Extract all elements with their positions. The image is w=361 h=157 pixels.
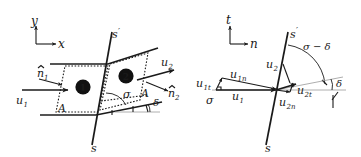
- label-angle-sigma-right: σ: [206, 94, 214, 107]
- vector-u2-arrow: [137, 70, 174, 80]
- figure-oblique-shock: 1 2 y x s: [0, 0, 361, 157]
- label-sigma-minus-delta: σ − δ: [303, 41, 331, 52]
- label-s-right: s: [265, 142, 271, 155]
- label-u1-sub: 1: [24, 101, 28, 109]
- label-u2-base: u: [161, 56, 168, 69]
- label-u2n-sub: 2n: [286, 103, 296, 111]
- region-marker-1-label: 1: [80, 83, 86, 93]
- left-panel-group: 1 2 y x s: [16, 14, 180, 155]
- label-n1-sub: 1: [44, 74, 48, 82]
- label-u1-right: u 1: [232, 90, 244, 105]
- axis-indicator-tn: [230, 26, 248, 44]
- leader-u2-right: [283, 64, 290, 83]
- upper-wall-downstream: [108, 48, 158, 64]
- label-u1n-base: u: [230, 68, 237, 81]
- label-s-prime-right-mark: ′: [296, 26, 298, 36]
- label-u2-sub: 2: [168, 63, 174, 71]
- label-u2-left: u 2: [161, 56, 174, 71]
- label-u1t-base: u: [196, 77, 203, 90]
- axis-label-n: n: [250, 37, 258, 51]
- label-s-prime-left-mark: ′: [118, 27, 120, 37]
- label-u2t: u 2t: [297, 84, 312, 99]
- label-u2-right-sub: 2: [273, 65, 279, 73]
- label-u2n: u 2n: [279, 96, 296, 111]
- axis-label-x: x: [58, 37, 65, 51]
- axis-label-t: t: [226, 13, 231, 27]
- label-n2-sub: 2: [174, 94, 180, 102]
- vector-n2-hat-arrow: [146, 82, 168, 91]
- deflected-direction-line: [276, 77, 343, 90]
- angle-delta-arc-right: [331, 79, 333, 90]
- label-angle-delta-right: δ: [336, 78, 342, 89]
- label-area-A-left: A: [57, 102, 66, 115]
- figure-canvas: 1 2 y x s: [0, 0, 361, 157]
- label-u1n: u 1n: [230, 68, 247, 83]
- shock-line-left: [92, 32, 112, 145]
- label-u1-left: u 1: [16, 94, 28, 109]
- label-s-prime-left: s ′: [112, 27, 120, 41]
- region-marker-2-label: 2: [123, 72, 129, 82]
- label-u2t-sub: 2t: [304, 91, 312, 99]
- label-u1t-sub: 1t: [204, 84, 211, 92]
- label-u2t-base: u: [297, 84, 304, 97]
- label-u1t: u 1t: [196, 77, 211, 92]
- label-area-A-right: A: [140, 87, 149, 100]
- label-u2-right-base: u: [266, 58, 273, 71]
- label-n2-hat: n 2: [168, 86, 180, 103]
- axis-label-y: y: [30, 14, 38, 28]
- label-u1-base: u: [16, 94, 23, 107]
- axis-indicator-xy: [36, 26, 56, 44]
- label-u2n-base: u: [279, 96, 286, 109]
- label-s-left: s: [91, 142, 97, 155]
- label-angle-sigma-left: σ: [123, 88, 131, 101]
- label-u1n-sub: 1n: [238, 75, 247, 83]
- label-u2-right: u 2: [266, 58, 279, 73]
- right-panel-group: t n s ′ s σ − δ δ: [196, 13, 346, 155]
- delta-tick-left: [146, 105, 148, 112]
- label-s-prime-right: s ′: [290, 26, 298, 41]
- label-n1-hat: n 1: [37, 66, 48, 83]
- label-u1-right-base: u: [232, 90, 239, 103]
- label-angle-delta-left: δ: [153, 97, 159, 108]
- label-u1-right-sub: 1: [240, 97, 244, 105]
